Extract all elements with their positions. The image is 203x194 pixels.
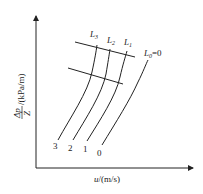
y-axis-label: Δp Z /(kPa/m) (12, 74, 32, 120)
curve-label-L3: L3 (89, 29, 98, 40)
curve-label-L0: L0=0 (143, 48, 162, 59)
x-axis-label: u/(m/s) (94, 174, 120, 184)
y-label-unit: /(kPa/m) (16, 74, 26, 106)
curve-bottom-label-3: 3 (53, 141, 58, 151)
loading-line (68, 68, 123, 84)
curve-2 (73, 49, 110, 140)
curve-1 (87, 51, 127, 141)
curve-label-L2: L2 (106, 35, 115, 46)
y-label-numerator: Δp (12, 108, 22, 119)
curve-bottom-label-1: 1 (83, 144, 88, 154)
curve-0 (102, 60, 148, 145)
curve-label-L1: L1 (123, 37, 132, 48)
curve-bottom-label-0: 0 (97, 148, 102, 158)
curve-bottom-label-2: 2 (68, 143, 73, 153)
pressure-drop-diagram: L3 L2 L1 L0=0 3 2 1 0 u/(m/s) Δp Z /(kPa… (0, 0, 203, 194)
y-label-denominator: Z (22, 110, 32, 116)
curve-3 (58, 45, 97, 140)
